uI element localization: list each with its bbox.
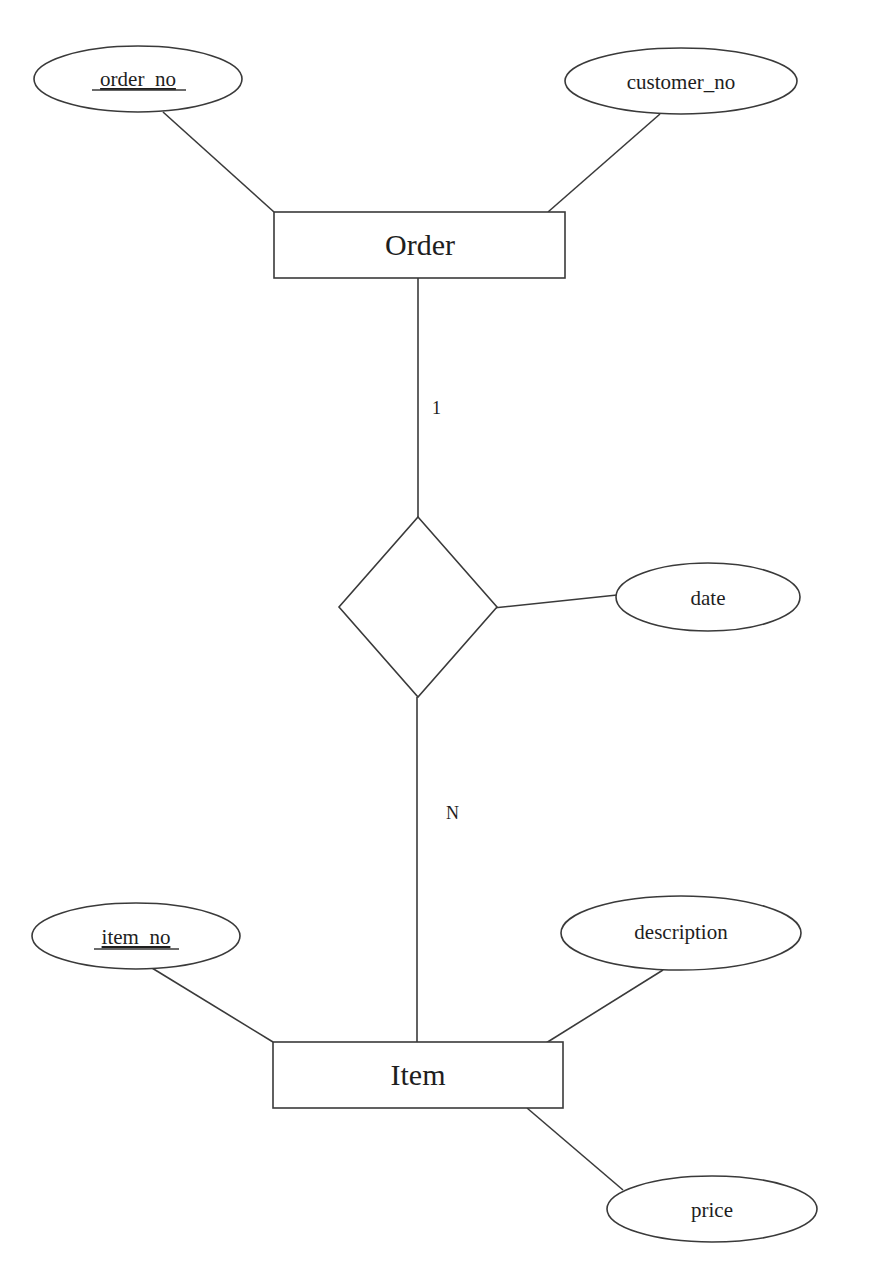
attribute-price[interactable]: price: [607, 1176, 817, 1242]
relationship-diamond[interactable]: [339, 517, 497, 697]
cardinality-order-side: 1: [432, 398, 441, 418]
attribute-date[interactable]: date: [616, 563, 800, 631]
entity-item-label: Item: [391, 1058, 446, 1091]
attribute-description[interactable]: description: [561, 896, 801, 970]
edge-item-to-price: [527, 1108, 623, 1190]
entity-order[interactable]: Order: [274, 212, 565, 278]
edge-customer-no-to-order: [548, 114, 660, 212]
entity-order-label: Order: [385, 228, 455, 261]
attribute-description-label: description: [634, 920, 728, 944]
attribute-item-no[interactable]: item_no: [32, 903, 240, 969]
attribute-price-label: price: [691, 1198, 733, 1222]
entity-item[interactable]: Item: [273, 1042, 563, 1108]
cardinality-item-side: N: [446, 803, 459, 823]
attribute-order-no[interactable]: order_no: [34, 46, 242, 112]
edge-order-no-to-order: [163, 112, 274, 212]
attribute-order-no-label: order_no: [100, 67, 176, 91]
attribute-customer-no[interactable]: customer_no: [565, 48, 797, 114]
edge-item-no-to-item: [152, 968, 273, 1042]
edge-description-to-item: [546, 970, 663, 1043]
er-diagram: order_no customer_no Order 1 date N item…: [0, 0, 893, 1270]
attribute-customer-no-label: customer_no: [627, 70, 735, 94]
attribute-item-no-label: item_no: [102, 925, 171, 949]
attribute-date-label: date: [691, 586, 726, 610]
